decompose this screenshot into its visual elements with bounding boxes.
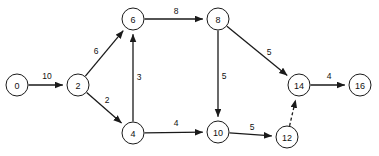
node-label-2: 2 [75, 81, 80, 91]
edge-weight-10-to-12: 5 [250, 122, 255, 132]
graph-node-2[interactable]: 2 [67, 74, 89, 96]
graph-edge-4-to-10 [144, 132, 202, 133]
graph-node-14[interactable]: 14 [288, 74, 310, 96]
edge-weight-8-to-14: 5 [267, 47, 272, 57]
edge-weight-4-to-10: 4 [174, 118, 179, 128]
graph-node-16[interactable]: 16 [349, 74, 371, 96]
node-label-12: 12 [282, 133, 292, 143]
edge-weight-2-to-4: 2 [105, 95, 110, 105]
graph-node-12[interactable]: 12 [276, 126, 298, 148]
node-label-6: 6 [130, 15, 135, 25]
edge-weight-4-to-6: 3 [137, 72, 142, 82]
graph-edge-2-to-6 [85, 31, 123, 76]
graph-node-0[interactable]: 0 [6, 74, 28, 96]
graph-diagram: 10623855454 0264810121416 [0, 0, 379, 156]
graph-canvas: 10623855454 0264810121416 [0, 0, 379, 156]
node-label-10: 10 [213, 128, 223, 138]
graph-edge-10-to-12 [229, 133, 271, 136]
edge-weight-8-to-10: 5 [222, 71, 227, 81]
node-label-8: 8 [215, 15, 220, 25]
node-label-4: 4 [130, 129, 135, 139]
graph-node-10[interactable]: 10 [207, 121, 229, 143]
nodes-layer: 0264810121416 [6, 8, 371, 148]
edge-weight-14-to-16: 4 [327, 71, 332, 81]
node-label-0: 0 [14, 81, 19, 91]
edge-weight-2-to-6: 6 [94, 46, 99, 56]
edge-weight-6-to-8: 8 [174, 6, 179, 16]
graph-node-4[interactable]: 4 [122, 122, 144, 144]
graph-node-8[interactable]: 8 [207, 8, 229, 30]
node-label-16: 16 [355, 81, 365, 91]
graph-edge-8-to-14 [227, 26, 287, 75]
graph-node-6[interactable]: 6 [122, 8, 144, 30]
edge-labels-layer: 10623855454 [42, 6, 331, 132]
node-label-14: 14 [294, 81, 304, 91]
graph-edge-12-to-14 [290, 100, 296, 126]
edge-weight-0-to-2: 10 [42, 71, 52, 81]
